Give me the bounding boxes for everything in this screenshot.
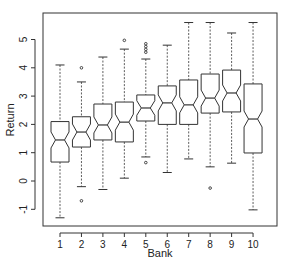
outlier-point bbox=[80, 200, 83, 203]
y-tick-label: 1 bbox=[18, 149, 29, 155]
box-bank-6 bbox=[158, 45, 176, 172]
plot-frame bbox=[43, 13, 277, 226]
x-tick-label: 3 bbox=[100, 239, 106, 250]
boxes-group bbox=[51, 23, 262, 218]
x-tick-label: 7 bbox=[186, 239, 192, 250]
y-tick-label: 5 bbox=[18, 36, 29, 42]
outlier-point bbox=[209, 187, 212, 190]
box-bank-3 bbox=[94, 57, 112, 189]
outlier-point bbox=[123, 39, 126, 42]
x-tick-label: 10 bbox=[247, 239, 259, 250]
notched-box bbox=[180, 80, 198, 124]
outlier-point bbox=[145, 51, 148, 54]
notched-box bbox=[201, 74, 219, 113]
y-tick-label: -1 bbox=[18, 204, 29, 213]
x-axis-label: Bank bbox=[147, 247, 173, 259]
y-tick-label: 4 bbox=[18, 65, 29, 71]
notched-box bbox=[51, 122, 69, 162]
outlier-point bbox=[145, 45, 148, 48]
box-bank-4 bbox=[115, 39, 133, 178]
outlier-point bbox=[145, 42, 148, 45]
box-bank-9 bbox=[223, 33, 241, 163]
notched-box bbox=[223, 70, 241, 112]
box-bank-1 bbox=[51, 65, 69, 218]
y-axis-label: Return bbox=[4, 103, 16, 136]
box-bank-7 bbox=[180, 23, 198, 159]
box-bank-2 bbox=[72, 67, 90, 203]
x-tick-label: 8 bbox=[207, 239, 213, 250]
notched-box bbox=[158, 86, 176, 124]
box-bank-10 bbox=[244, 23, 262, 210]
outlier-point bbox=[145, 48, 148, 51]
x-tick-label: 9 bbox=[229, 239, 235, 250]
x-tick-label: 2 bbox=[79, 239, 85, 250]
outlier-point bbox=[80, 67, 83, 70]
boxplot-chart: -1012345 12345678910 Return Bank bbox=[0, 0, 289, 270]
y-tick-label: 2 bbox=[18, 121, 29, 127]
outlier-point bbox=[145, 161, 148, 164]
y-tick-label: 0 bbox=[18, 178, 29, 184]
y-tick-label: 3 bbox=[18, 93, 29, 99]
x-tick-label: 1 bbox=[57, 239, 63, 250]
x-tick-label: 4 bbox=[122, 239, 128, 250]
y-axis: -1012345 bbox=[18, 36, 35, 213]
box-bank-5 bbox=[137, 42, 155, 163]
notched-box bbox=[94, 104, 112, 140]
box-bank-8 bbox=[201, 23, 219, 190]
